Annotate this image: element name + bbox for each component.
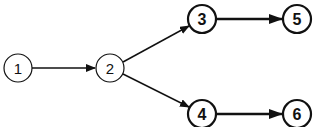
node-1-label: 1 xyxy=(14,60,22,77)
edge-2-to-4 xyxy=(123,74,189,107)
edges xyxy=(32,19,282,114)
node-5: 5 xyxy=(283,5,311,33)
node-6: 6 xyxy=(283,100,311,127)
graph-diagram: 1 2 3 4 5 6 xyxy=(0,0,315,127)
node-3: 3 xyxy=(188,5,216,33)
node-5-label: 5 xyxy=(293,11,302,28)
node-2-label: 2 xyxy=(106,60,114,77)
node-2: 2 xyxy=(96,54,124,82)
edge-2-to-3 xyxy=(123,26,189,62)
node-6-label: 6 xyxy=(293,106,302,123)
node-4: 4 xyxy=(188,100,216,127)
node-3-label: 3 xyxy=(198,11,207,28)
node-1: 1 xyxy=(4,54,32,82)
node-4-label: 4 xyxy=(198,106,207,123)
